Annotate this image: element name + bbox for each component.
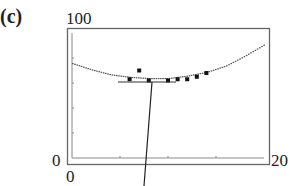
fit-curve	[72, 45, 265, 80]
axis-ticks	[72, 58, 216, 158]
data-points	[128, 69, 209, 83]
screen-frame	[68, 29, 270, 165]
calculator-plot	[0, 0, 290, 186]
pointer-line	[144, 82, 152, 186]
